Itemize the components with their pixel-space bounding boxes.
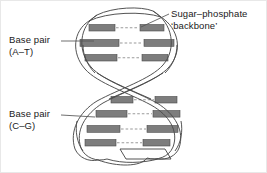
label-base-pair-at: Base pair (A–T) — [9, 34, 50, 57]
base-pair-rung — [96, 111, 180, 118]
base-pair-rung — [89, 25, 164, 32]
backbone-bottom-tail — [120, 149, 171, 159]
backbone-top-cap-inner — [89, 13, 161, 21]
label-base-pair-cg-line2: (C–G) — [9, 120, 50, 132]
label-sugar-phosphate-line2: ‘backbone’ — [171, 20, 248, 32]
backbone-strand-a-inner — [82, 15, 181, 159]
base-pair-rung — [111, 97, 177, 104]
dna-diagram-figure: Sugar–phosphate ‘backbone’ Base pair (A–… — [0, 0, 267, 173]
backbone-bottom-cap-outer — [107, 159, 158, 162]
base-pair-rung — [80, 40, 174, 47]
base-pair-rung — [85, 140, 170, 147]
label-sugar-phosphate-backbone: Sugar–phosphate ‘backbone’ — [171, 8, 248, 31]
base-pair-rungs-lower — [85, 97, 180, 147]
backbone-crossover-line-b — [109, 73, 163, 99]
backbone-crossover-line-a — [97, 73, 151, 99]
label-base-pair-cg-line1: Base pair — [9, 108, 50, 119]
base-pair-rungs-upper — [80, 25, 174, 62]
label-sugar-phosphate-line1: Sugar–phosphate — [171, 8, 248, 19]
label-base-pair-at-line1: Base pair — [9, 34, 50, 45]
label-base-pair-cg: Base pair (C–G) — [9, 108, 50, 131]
base-pair-rung — [85, 55, 168, 62]
leader-line-base-pair-cg — [61, 115, 95, 117]
label-base-pair-at-line2: (A–T) — [9, 46, 50, 58]
base-pair-rung — [87, 126, 178, 133]
